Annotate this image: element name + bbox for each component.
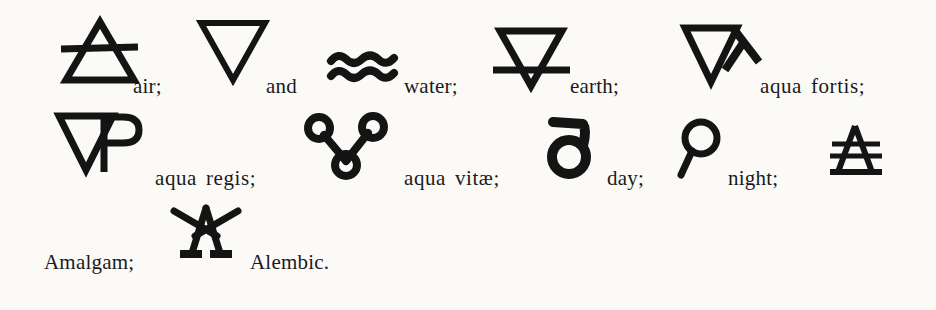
- symbol-plate: air; and water; earth; aqua fortis;: [0, 0, 936, 310]
- aqua-fortis-label: aqua fortis;: [760, 76, 865, 97]
- aqua-vitae-label: aqua vitæ;: [404, 168, 500, 189]
- night-symbol: [676, 118, 722, 178]
- inverted-triangle-symbol: [196, 18, 270, 84]
- aqua-vitae-symbol: [304, 113, 388, 179]
- day-label: day;: [607, 168, 644, 189]
- and-label: and: [266, 76, 297, 97]
- day-symbol: [545, 116, 595, 178]
- air-symbol: [58, 16, 142, 86]
- aqua-regis-symbol: [55, 110, 145, 178]
- alembic-label: Alembic.: [250, 252, 329, 273]
- water-symbol: [327, 52, 405, 84]
- amalgam-symbol: [828, 122, 884, 178]
- water-label: water;: [404, 76, 458, 97]
- air-label: air;: [133, 76, 162, 97]
- amalgam-label: Amalgam;: [44, 252, 134, 273]
- alembic-symbol: [170, 203, 242, 259]
- earth-label: earth;: [570, 76, 619, 97]
- night-label: night;: [728, 168, 778, 189]
- earth-symbol: [490, 26, 574, 90]
- aqua-regis-label: aqua regis;: [155, 168, 256, 189]
- aqua-fortis-symbol: [681, 22, 767, 88]
